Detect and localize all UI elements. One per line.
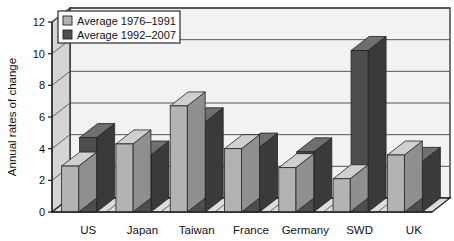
x-label-japan: Japan xyxy=(127,224,158,236)
bar-chart: 024681012Annual rates of changeUSJapanTa… xyxy=(0,0,454,241)
bar-side-face xyxy=(205,108,223,212)
legend-swatch-1 xyxy=(63,16,72,25)
y-tick-label: 10 xyxy=(33,48,45,60)
y-axis-title-text: Annual rates of change xyxy=(6,58,18,176)
x-label-uk: UK xyxy=(406,224,422,236)
bar-front-face xyxy=(279,168,296,212)
y-tick-label: 4 xyxy=(39,143,45,155)
bar-front-face xyxy=(333,179,350,212)
y-tick-label: 12 xyxy=(33,16,45,28)
legend: Average 1976–1991Average 1992–2007 xyxy=(58,11,180,43)
bar-side-face xyxy=(368,37,386,213)
x-label-swd: SWD xyxy=(346,224,373,236)
legend-label-2: Average 1992–2007 xyxy=(77,29,176,41)
y-axis-title: Annual rates of change xyxy=(6,58,18,176)
bar-taiwan-1976-1991 xyxy=(170,92,205,212)
bar-front-face xyxy=(225,149,242,212)
x-label-france: France xyxy=(233,224,269,236)
x-label-taiwan: Taiwan xyxy=(179,224,215,236)
y-tick-label: 0 xyxy=(39,206,45,218)
y-axis-ticks: 024681012 xyxy=(33,16,52,218)
bar-japan-1976-1991 xyxy=(116,130,151,212)
x-label-us: US xyxy=(80,224,96,236)
bar-uk-1976-1991 xyxy=(387,141,422,212)
legend-label-1: Average 1976–1991 xyxy=(77,15,176,27)
legend-swatch-2 xyxy=(63,30,72,39)
y-tick-label: 6 xyxy=(39,111,45,123)
bar-side-face xyxy=(187,92,205,212)
bar-france-1976-1991 xyxy=(225,135,260,212)
x-label-germany: Germany xyxy=(282,224,330,236)
y-tick-label: 2 xyxy=(39,174,45,186)
x-axis-labels: USJapanTaiwanFranceGermanySWDUK xyxy=(80,224,422,236)
chart-canvas: 024681012Annual rates of changeUSJapanTa… xyxy=(0,0,454,241)
bar-front-face xyxy=(62,166,79,212)
bar-front-face xyxy=(387,155,404,212)
bar-side-face xyxy=(97,124,115,212)
y-tick-label: 8 xyxy=(39,79,45,91)
bar-front-face xyxy=(116,144,133,212)
bar-front-face xyxy=(170,106,187,212)
